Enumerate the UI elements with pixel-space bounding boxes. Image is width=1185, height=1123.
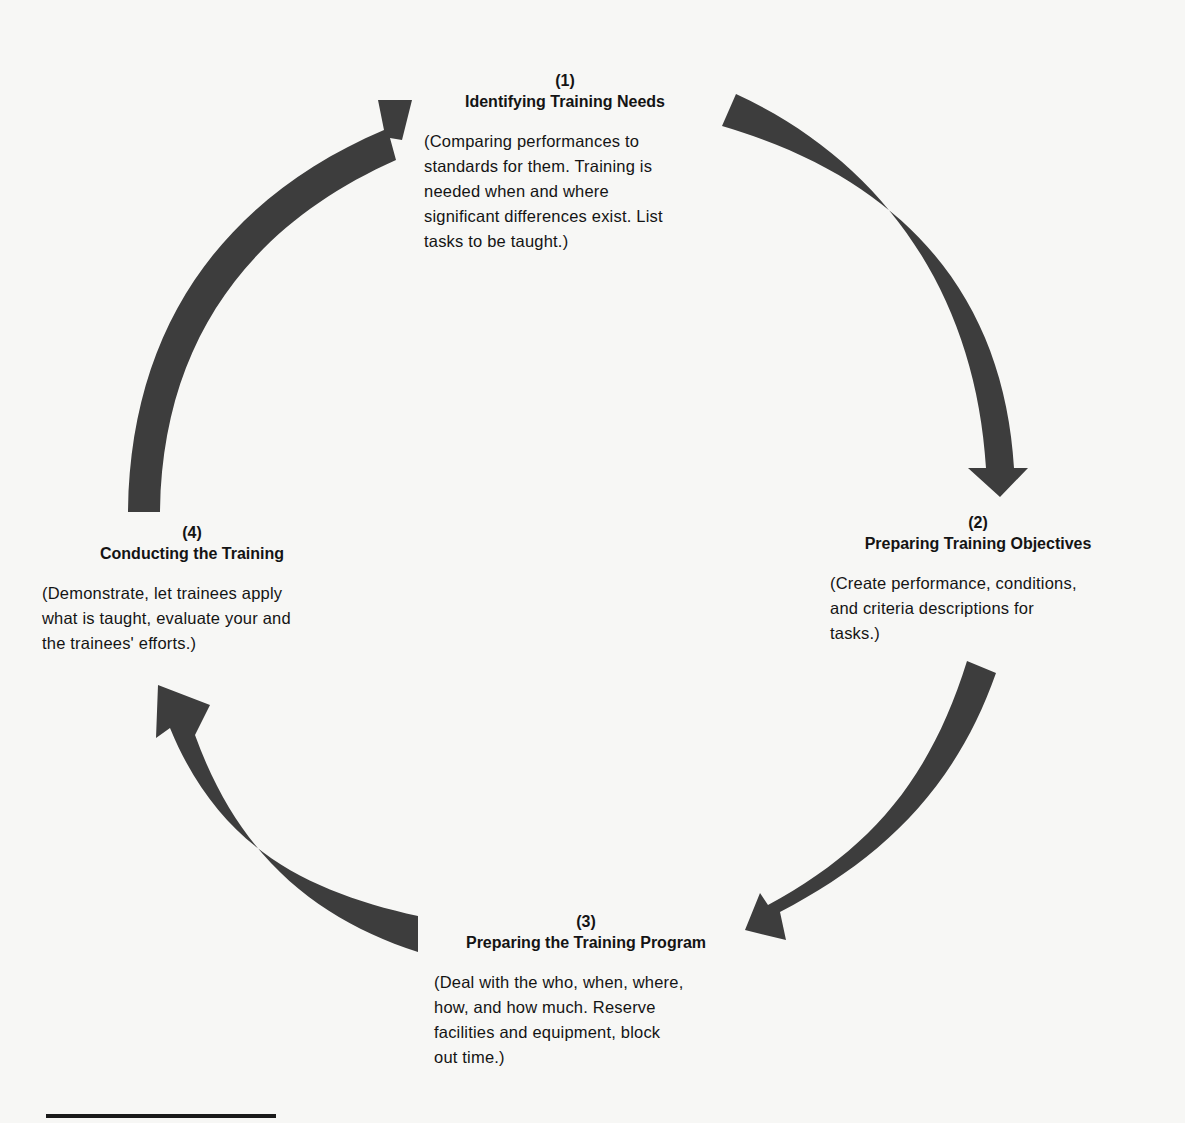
step-3-title: Preparing the Training Program: [434, 932, 738, 953]
step-1-heading: (1) Identifying Training Needs: [424, 70, 706, 112]
step-preparing-training-program: (3) Preparing the Training Program (Deal…: [434, 911, 754, 1070]
arrow-2-to-3: [745, 661, 996, 940]
step-3-heading: (3) Preparing the Training Program: [434, 911, 738, 953]
step-3-number: (3): [434, 911, 738, 932]
arrow-1-to-2: [722, 94, 1028, 497]
footnote-divider: [46, 1114, 276, 1118]
step-2-heading: (2) Preparing Training Objectives: [830, 512, 1126, 554]
step-4-number: (4): [42, 522, 342, 543]
step-4-description: (Demonstrate, let trainees apply what is…: [42, 581, 362, 656]
step-identifying-training-needs: (1) Identifying Training Needs (Comparin…: [424, 70, 724, 254]
arrow-4-to-1: [128, 100, 412, 512]
step-4-title: Conducting the Training: [42, 543, 342, 564]
step-preparing-training-objectives: (2) Preparing Training Objectives (Creat…: [830, 512, 1160, 646]
step-2-title: Preparing Training Objectives: [830, 533, 1126, 554]
step-3-description: (Deal with the who, when, where, how, an…: [434, 970, 754, 1070]
arrow-3-to-4: [156, 685, 418, 952]
step-1-title: Identifying Training Needs: [424, 91, 706, 112]
step-1-description: (Comparing performances to standards for…: [424, 129, 724, 254]
step-1-number: (1): [424, 70, 706, 91]
step-2-number: (2): [830, 512, 1126, 533]
step-2-description: (Create performance, conditions, and cri…: [830, 571, 1160, 646]
step-4-heading: (4) Conducting the Training: [42, 522, 342, 564]
step-conducting-the-training: (4) Conducting the Training (Demonstrate…: [42, 522, 362, 656]
